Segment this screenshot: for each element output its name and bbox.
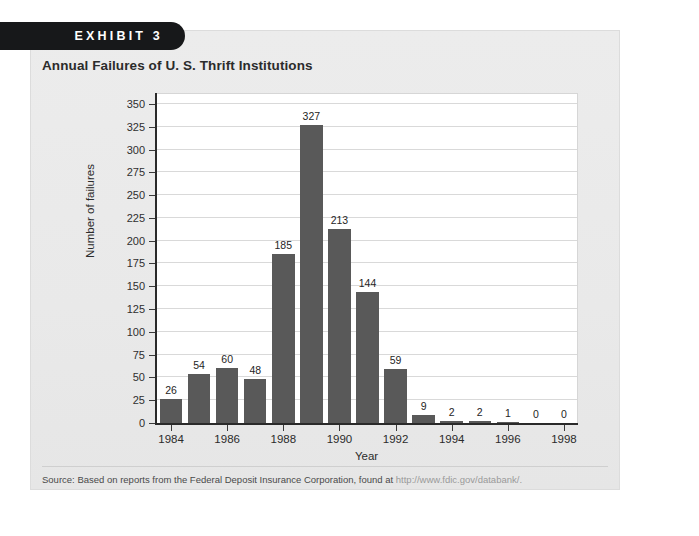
bar-slot: 54	[185, 93, 213, 423]
exhibit-tab: EXHIBIT 3	[0, 22, 185, 50]
y-axis-tick	[149, 150, 155, 151]
bar-value-label: 1	[494, 407, 522, 419]
bar[interactable]	[384, 369, 406, 423]
y-axis-tick	[149, 172, 155, 173]
bar-value-label: 9	[410, 400, 438, 412]
y-axis-tick-label: 0	[105, 417, 145, 429]
y-axis-tick	[149, 332, 155, 333]
x-axis-tick	[396, 425, 397, 431]
bar-value-label: 54	[185, 359, 213, 371]
y-axis-tick	[149, 104, 155, 105]
bar-slot: 0	[522, 93, 550, 423]
x-axis-tick-label: 1990	[309, 433, 369, 445]
bar[interactable]	[160, 399, 182, 423]
bar-value-label: 144	[353, 277, 381, 289]
bar-slot: 144	[353, 93, 381, 423]
source-url[interactable]: http://www.fdic.gov/databank/.	[396, 474, 522, 485]
x-axis-tick-label: 1996	[478, 433, 538, 445]
y-axis-tick-label: 50	[105, 371, 145, 383]
bar-value-label: 185	[269, 239, 297, 251]
y-axis-tick-label: 250	[105, 189, 145, 201]
bar-value-label: 48	[241, 364, 269, 376]
y-axis-tick-label: 325	[105, 121, 145, 133]
bar-slot: 59	[382, 93, 410, 423]
y-axis-tick	[149, 127, 155, 128]
bar-slot: 9	[410, 93, 438, 423]
x-axis-tick	[452, 425, 453, 431]
y-axis-tick	[149, 286, 155, 287]
bar[interactable]	[244, 379, 266, 423]
x-axis-tick-label: 1994	[422, 433, 482, 445]
y-axis-tick-label: 200	[105, 235, 145, 247]
x-axis-tick-label: 1986	[197, 433, 257, 445]
bar-slot: 327	[297, 93, 325, 423]
y-axis-tick	[149, 309, 155, 310]
bar-value-label: 26	[157, 384, 185, 396]
x-axis-tick	[508, 425, 509, 431]
bar-value-label: 2	[466, 406, 494, 418]
x-axis-tick-label: 1998	[534, 433, 594, 445]
bar-slot: 213	[325, 93, 353, 423]
y-axis-tick-label: 175	[105, 257, 145, 269]
bar-value-label: 213	[325, 214, 353, 226]
bar-value-label: 59	[382, 354, 410, 366]
bar[interactable]	[272, 254, 294, 423]
y-axis-line	[155, 93, 157, 424]
x-axis-tick	[283, 425, 284, 431]
bar-slot: 1	[494, 93, 522, 423]
x-axis-title: Year	[155, 450, 578, 462]
y-axis-tick	[149, 263, 155, 264]
y-axis-tick-label: 100	[105, 326, 145, 338]
bar-slot: 48	[241, 93, 269, 423]
exhibit-tab-label: EXHIBIT 3	[74, 29, 163, 43]
bar[interactable]	[300, 125, 322, 423]
exhibit-page: EXHIBIT 3 Annual Failures of U. S. Thrif…	[0, 0, 699, 536]
bar-slot: 2	[438, 93, 466, 423]
y-axis-tick-label: 225	[105, 212, 145, 224]
bar-slot: 0	[550, 93, 578, 423]
bar-slot: 60	[213, 93, 241, 423]
x-axis-tick	[171, 425, 172, 431]
y-axis-tick	[149, 377, 155, 378]
y-axis-tick	[149, 423, 155, 424]
bar-slot: 26	[157, 93, 185, 423]
bar[interactable]	[356, 292, 378, 423]
y-axis-tick-label: 350	[105, 98, 145, 110]
y-axis-tick	[149, 355, 155, 356]
bar[interactable]	[328, 229, 350, 423]
y-axis-tick-label: 75	[105, 349, 145, 361]
bar-value-label: 0	[550, 408, 578, 420]
bar-slot: 2	[466, 93, 494, 423]
x-axis-tick-label: 1988	[253, 433, 313, 445]
bar[interactable]	[216, 368, 238, 423]
bar-series: 2654604818532721314459922100	[157, 93, 578, 423]
y-axis-tick-label: 150	[105, 280, 145, 292]
bar-slot: 185	[269, 93, 297, 423]
x-axis-tick	[227, 425, 228, 431]
y-axis-tick-labels: 0255075100125150175200225250275300325350	[103, 93, 145, 424]
bar[interactable]	[188, 374, 210, 423]
y-axis-tick	[149, 195, 155, 196]
y-axis-tick	[149, 400, 155, 401]
y-axis-tick	[149, 241, 155, 242]
x-axis-tick	[564, 425, 565, 431]
source-text: Source: Based on reports from the Federa…	[42, 474, 396, 485]
y-axis-tick-label: 275	[105, 166, 145, 178]
source-note: Source: Based on reports from the Federa…	[42, 474, 522, 485]
y-axis-tick-label: 125	[105, 303, 145, 315]
y-axis-tick-label: 25	[105, 394, 145, 406]
y-axis-tick-label: 300	[105, 144, 145, 156]
y-axis-title: Number of failures	[84, 164, 96, 258]
bar[interactable]	[412, 415, 434, 423]
bar-value-label: 60	[213, 353, 241, 365]
x-axis-tick	[339, 425, 340, 431]
bar-value-label: 0	[522, 408, 550, 420]
bar-value-label: 2	[438, 406, 466, 418]
x-axis-tick-label: 1984	[141, 433, 201, 445]
chart-title: Annual Failures of U. S. Thrift Institut…	[42, 58, 313, 73]
source-divider	[42, 466, 608, 467]
x-axis-tick-label: 1992	[366, 433, 426, 445]
y-axis-tick	[149, 218, 155, 219]
bar-value-label: 327	[297, 110, 325, 122]
